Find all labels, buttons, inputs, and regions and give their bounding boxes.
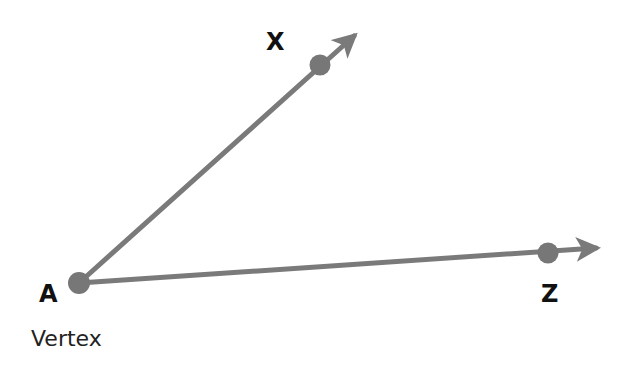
label-a: A: [39, 280, 58, 308]
label-x: X: [266, 28, 285, 56]
vertex-point-a: [68, 272, 90, 294]
point-z: [538, 243, 559, 264]
angle-diagram: X Z A Vertex: [0, 0, 636, 366]
ray-az: [79, 248, 596, 283]
point-x: [310, 55, 331, 76]
vertex-caption: Vertex: [31, 326, 102, 351]
ray-ax: [79, 36, 354, 283]
label-z: Z: [541, 280, 558, 308]
